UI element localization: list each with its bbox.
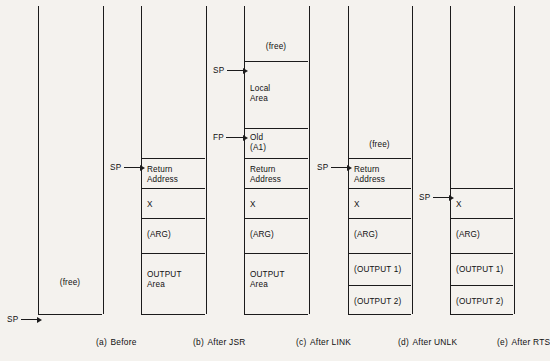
divider-return-address-top bbox=[244, 158, 308, 159]
divider-x-top bbox=[450, 188, 513, 189]
pointer-shaft bbox=[433, 197, 450, 198]
divider-output-area-top bbox=[244, 253, 308, 254]
caption-text: Before bbox=[111, 337, 137, 347]
stack-rail-right bbox=[206, 6, 207, 314]
slot-x: X bbox=[147, 200, 201, 210]
slot-output-2: (OUTPUT 2) bbox=[354, 297, 407, 307]
divider-output-2-top bbox=[450, 285, 513, 286]
divider-arg-top bbox=[141, 218, 205, 219]
arrow-head-icon bbox=[243, 68, 248, 74]
divider-x-top bbox=[348, 188, 411, 189]
pointer-shaft bbox=[226, 137, 243, 138]
divider-x-top bbox=[141, 188, 205, 189]
slot-arg: (ARG) bbox=[147, 230, 201, 240]
slot-x: X bbox=[354, 200, 407, 210]
slot-arg: (ARG) bbox=[354, 230, 407, 240]
divider-local-area-top bbox=[244, 61, 308, 62]
caption-tag: (b) bbox=[193, 337, 204, 347]
pointer-sp-after-link: SP bbox=[213, 65, 248, 76]
caption-tag: (a) bbox=[96, 337, 107, 347]
divider-output-1-top bbox=[450, 253, 513, 254]
caption-after-jsr: (b)After JSR bbox=[193, 337, 246, 347]
divider-arg-top bbox=[450, 218, 513, 219]
caption-after-unlk: (d)After UNLK bbox=[398, 337, 457, 347]
pointer-sp-label: SP bbox=[7, 314, 18, 325]
pointer-sp-after-rts: SP bbox=[419, 192, 454, 203]
slot-return-address: Return Address bbox=[250, 165, 304, 186]
slot-x: X bbox=[250, 200, 304, 210]
pointer-sp-before: SP bbox=[7, 314, 42, 325]
pointer-sp-after-jsr: SP bbox=[110, 162, 145, 173]
caption-text: After LINK bbox=[310, 337, 351, 347]
slot-arg: (ARG) bbox=[250, 230, 304, 240]
divider-old-a1-top bbox=[244, 128, 308, 129]
caption-text: After JSR bbox=[208, 337, 246, 347]
pointer-shaft bbox=[124, 167, 141, 168]
arrow-head-icon bbox=[140, 165, 145, 171]
pointer-shaft bbox=[21, 319, 38, 320]
caption-tag: (c) bbox=[296, 337, 307, 347]
pointer-shaft bbox=[227, 70, 244, 71]
stack-column-after-unlk: (free) Return Address X (ARG) (OUTPUT 1)… bbox=[348, 6, 411, 314]
slot-output-1: (OUTPUT 1) bbox=[456, 265, 509, 275]
caption-before: (a)Before bbox=[96, 337, 137, 347]
slot-old-a1: Old (A1) bbox=[250, 133, 304, 154]
arrow-head-icon bbox=[37, 317, 42, 323]
slot-return-address: Return Address bbox=[147, 165, 201, 186]
slot-local-area: Local Area bbox=[250, 84, 304, 105]
stack-rail-right bbox=[103, 6, 104, 314]
slot-free-space: (free) bbox=[244, 42, 308, 52]
stack-column-after-jsr: Return Address X (ARG) OUTPUT Area bbox=[141, 6, 205, 314]
divider-return-address-top bbox=[348, 158, 411, 159]
divider-arg-top bbox=[244, 218, 308, 219]
pointer-sp-after-unlk: SP bbox=[317, 162, 352, 173]
pointer-sp-label: SP bbox=[110, 162, 121, 173]
caption-text: After UNLK bbox=[413, 337, 458, 347]
divider-output-2-top bbox=[348, 285, 411, 286]
slot-x: X bbox=[456, 200, 509, 210]
divider-return-address-top bbox=[141, 158, 205, 159]
slot-output-2: (OUTPUT 2) bbox=[456, 297, 509, 307]
stack-bottom-line bbox=[450, 314, 513, 315]
caption-tag: (e) bbox=[497, 337, 508, 347]
pointer-fp-after-link: FP bbox=[213, 132, 248, 143]
pointer-fp-label: FP bbox=[213, 132, 224, 143]
arrow-head-icon bbox=[347, 165, 352, 171]
caption-tag: (d) bbox=[398, 337, 409, 347]
divider-output-area-top bbox=[141, 253, 205, 254]
arrow-head-icon bbox=[449, 195, 454, 201]
slot-output-1: (OUTPUT 1) bbox=[354, 265, 407, 275]
slot-free-space: (free) bbox=[348, 140, 411, 150]
slot-arg: (ARG) bbox=[456, 230, 509, 240]
slot-output-area: OUTPUT Area bbox=[250, 270, 304, 291]
stack-column-before: (free) bbox=[38, 6, 102, 314]
pointer-sp-label: SP bbox=[317, 162, 328, 173]
pointer-shaft bbox=[331, 167, 348, 168]
divider-output-1-top bbox=[348, 253, 411, 254]
pointer-sp-label: SP bbox=[213, 65, 224, 76]
caption-text: After RTS bbox=[512, 337, 550, 347]
stack-rail-left bbox=[450, 6, 451, 314]
stack-bottom-line bbox=[141, 314, 205, 315]
stack-column-after-link: (free) Local Area Old (A1) Return Addres… bbox=[244, 6, 308, 314]
stack-rail-left bbox=[141, 6, 142, 314]
stack-bottom-line bbox=[348, 314, 411, 315]
arrow-head-icon bbox=[243, 135, 248, 141]
divider-x-top bbox=[244, 188, 308, 189]
stack-rail-right bbox=[412, 6, 413, 314]
caption-after-rts: (e)After RTS bbox=[497, 337, 550, 347]
stack-bottom-line bbox=[38, 314, 102, 315]
stack-rail-left bbox=[38, 6, 39, 314]
pointer-sp-label: SP bbox=[419, 192, 430, 203]
caption-after-link: (c)After LINK bbox=[296, 337, 351, 347]
slot-return-address: Return Address bbox=[354, 165, 407, 186]
stack-column-after-rts: X (ARG) (OUTPUT 1) (OUTPUT 2) bbox=[450, 6, 513, 314]
stack-rail-left bbox=[348, 6, 349, 314]
slot-output-area: OUTPUT Area bbox=[147, 270, 201, 291]
divider-arg-top bbox=[348, 218, 411, 219]
slot-free-space: (free) bbox=[38, 278, 102, 288]
stack-rail-right bbox=[514, 6, 515, 314]
stack-rail-right bbox=[309, 6, 310, 314]
stack-bottom-line bbox=[244, 314, 308, 315]
